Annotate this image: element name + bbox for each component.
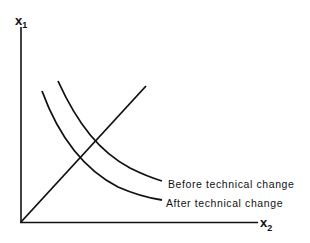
x-axis-label: x2: [260, 215, 272, 233]
label-after: After technical change: [166, 197, 283, 209]
isoquant-diagram: x1 x2 Before technical change After tech…: [0, 0, 310, 243]
y-axis-label: x1: [15, 13, 27, 30]
isoquant-after: [42, 91, 162, 200]
label-before: Before technical change: [168, 178, 294, 190]
expansion-ray: [21, 86, 146, 222]
